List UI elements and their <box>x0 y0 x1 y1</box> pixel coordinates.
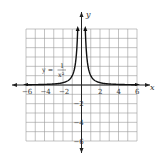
x-tick-label: −6 <box>22 88 33 96</box>
arrow-down-icon <box>80 148 84 153</box>
y-tick-label: −4 <box>74 119 85 127</box>
y-tick-label: −6 <box>74 138 85 146</box>
curve-arrow-left-icon <box>23 83 28 86</box>
curve-arrow-right-icon <box>135 83 140 86</box>
x-tick-label: −2 <box>59 88 69 96</box>
x-tick-label: 2 <box>98 88 102 96</box>
x-axis-label: x <box>150 83 155 92</box>
equation-lhs: y = <box>41 66 53 74</box>
arrow-left-icon <box>12 83 17 87</box>
x-tick-label: 6 <box>135 88 140 96</box>
y-axis-label: y <box>85 10 91 19</box>
equation-denominator: x² <box>58 71 65 79</box>
curve-arrow-up-icon <box>76 26 80 31</box>
graph-figure: −6−4−2246−2−4−6 x y y = 1 x² <box>0 0 162 162</box>
x-tick-label: −4 <box>41 88 52 96</box>
equation-numerator: 1 <box>60 62 64 70</box>
curve-arrow-up-icon <box>83 26 87 31</box>
y-tick-label: −2 <box>74 100 84 108</box>
x-tick-label: 4 <box>117 88 122 96</box>
arrow-up-icon <box>80 12 84 17</box>
